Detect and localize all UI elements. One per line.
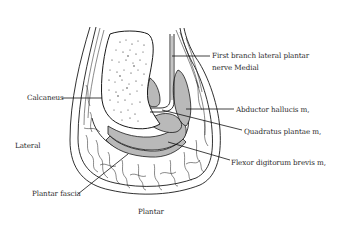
label-nerve-line1: First branch lateral plantar — [212, 51, 310, 60]
label-abductor-hallucis: Abductor hallucis m, — [235, 105, 310, 114]
label-calcaneus: Calcaneus — [27, 93, 64, 102]
heel-cross-section-diagram: First branch lateral plantar nerve Media… — [0, 0, 338, 236]
label-plantar-fascia: Plantar fascia — [32, 189, 82, 198]
label-flexor-digitorum-brevis: Flexor digitorum brevis m, — [231, 158, 326, 167]
label-quadratus-plantae: Quadratus plantae m, — [244, 127, 321, 136]
label-lateral: Lateral — [15, 141, 41, 150]
label-plantar: Plantar — [138, 207, 165, 216]
label-nerve-line2: nerve Medial — [212, 63, 260, 72]
